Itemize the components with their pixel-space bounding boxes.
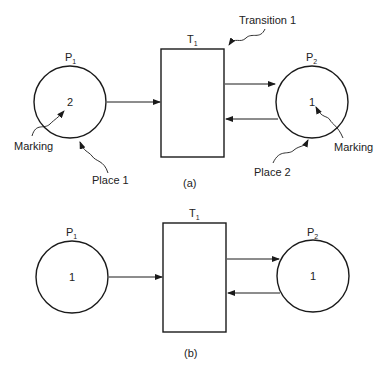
- marking-1-annotation: Marking: [14, 140, 53, 152]
- place-2-label: P2: [306, 51, 317, 65]
- petri-net-figure: P1 2 T1 P2 1 Transition 1 Marking Place …: [0, 0, 380, 371]
- place-2-tokens: 1: [310, 270, 316, 282]
- transition-pointer: [229, 29, 265, 45]
- transition-1: T1: [161, 33, 224, 157]
- transition-1-rect: [161, 49, 224, 157]
- diagram-a: P1 2 T1 P2 1 Transition 1 Marking Place …: [14, 14, 373, 189]
- place-1-label: P1: [65, 51, 76, 65]
- transition-1-label: T1: [187, 33, 198, 47]
- place-2-tokens: 1: [309, 96, 315, 108]
- marking-2-annotation: Marking: [334, 141, 373, 153]
- place-1-tokens: 2: [67, 96, 73, 108]
- diagram-b: P1 1 T1 P2 1 (b): [36, 207, 349, 359]
- place-1-tokens: 1: [69, 271, 75, 283]
- place-1-pointer: [80, 142, 108, 173]
- place-1-label: P1: [66, 226, 77, 240]
- place-2-label: P2: [307, 226, 318, 240]
- caption-a: (a): [183, 177, 196, 189]
- transition-1: T1: [163, 207, 226, 332]
- place-2-pointer: [273, 140, 308, 163]
- transition-annotation: Transition 1: [239, 14, 296, 26]
- place-2: P2 1: [276, 51, 348, 138]
- place-1: P1 1: [36, 226, 108, 313]
- place-2-annotation: Place 2: [254, 166, 291, 178]
- caption-b: (b): [184, 347, 197, 359]
- place-1: P1 2: [34, 51, 106, 138]
- transition-1-rect: [163, 223, 226, 332]
- place-1-annotation: Place 1: [92, 174, 129, 186]
- transition-1-label: T1: [189, 207, 200, 221]
- place-2: P2 1: [277, 226, 349, 312]
